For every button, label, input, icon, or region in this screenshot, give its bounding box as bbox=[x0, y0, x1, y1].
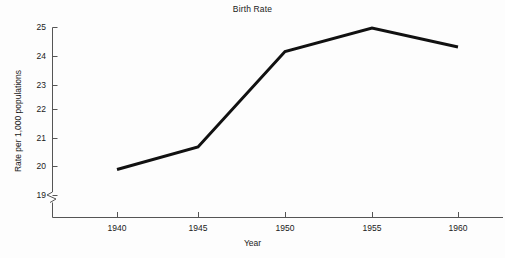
x-axis-label: Year bbox=[0, 238, 505, 248]
y-tick-label-20: 20 bbox=[20, 162, 46, 171]
y-tick-label-25: 25 bbox=[20, 23, 46, 32]
data-series-birth-rate bbox=[117, 28, 458, 170]
x-tick-label-1945: 1945 bbox=[175, 224, 221, 233]
x-tick-marks bbox=[118, 212, 459, 218]
y-tick-label-21: 21 bbox=[20, 134, 46, 143]
x-tick-label-1955: 1955 bbox=[349, 224, 395, 233]
x-tick-label-1960: 1960 bbox=[435, 224, 481, 233]
y-tick-label-19: 19 bbox=[20, 191, 46, 200]
plot-area bbox=[0, 0, 505, 258]
y-tick-label-24: 24 bbox=[20, 52, 46, 61]
x-tick-label-1950: 1950 bbox=[262, 224, 308, 233]
y-tick-label-23: 23 bbox=[20, 81, 46, 90]
y-axis-break-icon bbox=[47, 192, 56, 203]
y-axis-label: Rate per 1,000 populations bbox=[13, 46, 23, 196]
y-tick-marks bbox=[53, 28, 58, 196]
birth-rate-line-chart: Birth Rate 25 24 bbox=[0, 0, 505, 258]
y-tick-label-22: 22 bbox=[20, 105, 46, 114]
x-tick-label-1940: 1940 bbox=[94, 224, 140, 233]
